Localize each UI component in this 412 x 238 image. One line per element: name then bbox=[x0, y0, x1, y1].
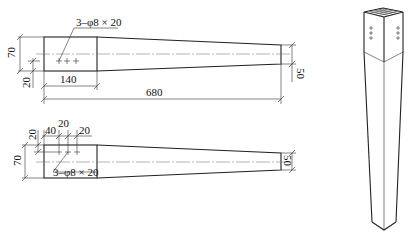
dim-70: 70 bbox=[11, 155, 23, 167]
technical-drawing: 3–φ8 × 20 70 20 140 680 50 bbox=[0, 0, 412, 238]
leg-right-edge bbox=[396, 52, 403, 222]
hole-callout: 3–φ8 × 20 bbox=[53, 166, 99, 178]
dim-50: 50 bbox=[295, 68, 307, 80]
dim-140: 140 bbox=[60, 73, 77, 85]
dim-20-spacing-1: 20 bbox=[58, 117, 70, 129]
dim-40: 40 bbox=[45, 124, 57, 136]
hole-leader bbox=[59, 28, 118, 61]
leg-left-edge bbox=[364, 52, 372, 222]
leg-taper-outline bbox=[97, 145, 281, 178]
isometric-view bbox=[364, 8, 403, 230]
hole-marks bbox=[56, 58, 79, 64]
bottom-view: 3–φ8 × 20 70 20 40 20 20 50 bbox=[11, 117, 296, 181]
dim-680: 680 bbox=[146, 86, 163, 98]
top-view: 3–φ8 × 20 70 20 140 680 50 bbox=[5, 16, 307, 104]
hole-callout: 3–φ8 × 20 bbox=[76, 16, 122, 28]
dim-50: 50 bbox=[282, 155, 294, 167]
dim-20: 20 bbox=[20, 77, 32, 89]
dim-20-spacing-2: 20 bbox=[79, 124, 91, 136]
dim-20-vertical: 20 bbox=[26, 129, 38, 141]
dim-70: 70 bbox=[5, 47, 17, 59]
